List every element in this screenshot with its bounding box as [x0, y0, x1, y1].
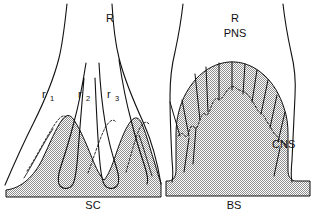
- pns-label: PNS: [224, 27, 247, 39]
- brainstem-label: BS: [227, 199, 242, 211]
- rootlet-label-r1-sub: 1: [50, 94, 54, 103]
- spinal-cord-label: SC: [85, 199, 100, 211]
- rootlet-label-r2-sub: 2: [86, 94, 90, 103]
- figure-root: R r 1 r 2 r 3 SC: [0, 0, 323, 223]
- rootlet-label-r1-text: r: [42, 88, 46, 100]
- rootlet-label-r3-text: r: [107, 88, 111, 100]
- rootlet-label-r3: r 3: [107, 88, 119, 103]
- right-panel-group: R PNS CNS BS: [166, 4, 310, 211]
- root-label-left: R: [106, 12, 114, 24]
- root-label-right: R: [231, 12, 239, 24]
- anatomical-diagram: R r 1 r 2 r 3 SC: [0, 0, 323, 223]
- rootlet-label-r3-sub: 3: [115, 94, 119, 103]
- cns-label: CNS: [272, 138, 295, 150]
- left-panel-group: R r 1 r 2 r 3 SC: [5, 4, 161, 211]
- rootlet-label-r2: r 2: [78, 88, 90, 103]
- rootlet-label-r2-text: r: [78, 88, 82, 100]
- spinal-cord-tissue: [6, 116, 161, 198]
- spinal-cord-tissue-fill: [6, 116, 161, 198]
